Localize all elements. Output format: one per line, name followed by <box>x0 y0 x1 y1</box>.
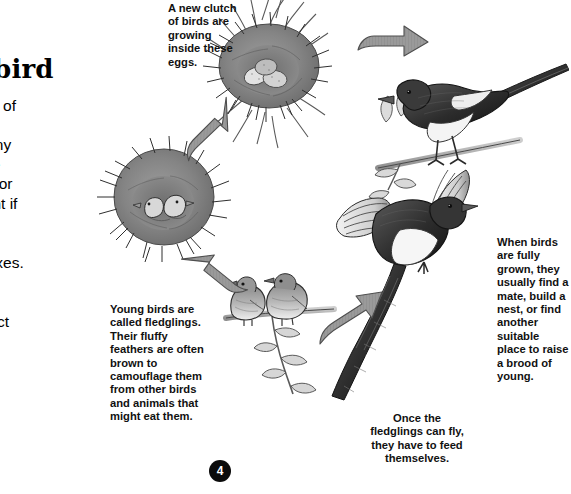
caption-line: grown, they <box>497 263 571 276</box>
intro-line: look just like <box>0 155 116 175</box>
caption-line: themselves. <box>358 452 476 465</box>
arrow-chicks-to-fledgling <box>181 254 247 294</box>
caption-fledglings: Young birds are called fledglings. Their… <box>110 303 222 424</box>
caption-line: might eat them. <box>110 410 222 423</box>
page-number: 4 <box>209 460 231 482</box>
caption-line: growing <box>168 29 264 42</box>
caption-eggs: A new clutch of birds are growing inside… <box>168 2 264 69</box>
caption-feeding: Once the fledglings can fly, they have t… <box>358 412 476 466</box>
caption-line: feathers are often <box>110 343 222 356</box>
page-title: to bird <box>0 54 54 84</box>
intro-line: f the two sexes. <box>0 253 116 273</box>
caption-line: Their fluffy <box>110 330 222 343</box>
intro-line: ng season, <box>0 292 116 312</box>
intro-line: show best <box>0 272 116 292</box>
flying-magpie-illustration <box>332 170 478 400</box>
caption-line: Young birds are <box>110 303 222 316</box>
caption-grown-birds: When birds are fully grown, they usually… <box>497 236 571 383</box>
caption-line: usually find a <box>497 276 571 289</box>
caption-line: brown to <box>110 357 222 370</box>
caption-line: When birds <box>497 236 571 249</box>
perched-magpie-illustration <box>369 64 569 199</box>
intro-line: watch birds <box>0 116 116 136</box>
caption-line: fledglings can fly, <box>358 425 476 438</box>
caption-line: nest, or find <box>497 303 571 316</box>
intro-line: n't expect any <box>0 135 116 155</box>
caption-line: A new clutch <box>168 2 264 15</box>
intro-line: y be different if <box>0 194 116 214</box>
caption-line: inside these <box>168 42 264 55</box>
arrow-adult-to-nest <box>358 26 428 56</box>
arrow-eggs-to-chicks <box>187 95 230 164</box>
caption-line: are fully <box>497 249 571 262</box>
intro-line: ving to attract <box>0 312 116 332</box>
arrow-fledgling-to-adult <box>320 292 382 344</box>
caption-line: mate, build a <box>497 290 571 303</box>
caption-line: place to raise <box>497 343 571 356</box>
caption-line: eggs. <box>168 56 264 69</box>
caption-line: another <box>497 316 571 329</box>
caption-line: from other birds <box>110 383 222 396</box>
caption-line: and animals that <box>110 397 222 410</box>
intro-paragraph: at all stages of watch birds n't expect … <box>0 96 116 331</box>
caption-line: called fledglings. <box>110 316 222 329</box>
intro-line: or a female. <box>0 214 116 234</box>
caption-line: they have to feed <box>358 439 476 452</box>
intro-line: the more <box>0 233 116 253</box>
caption-line: suitable <box>497 330 571 343</box>
caption-line: a brood of <box>497 357 571 370</box>
caption-line: of birds are <box>168 15 264 28</box>
nest-with-chicks-illustration <box>97 136 231 262</box>
two-fledglings-on-branch-illustration <box>226 274 334 394</box>
caption-line: Once the <box>358 412 476 425</box>
caption-line: camouflage them <box>110 370 222 383</box>
caption-line: young. <box>497 370 571 383</box>
intro-line: book. Its color <box>0 174 116 194</box>
intro-line: at all stages of <box>0 96 116 116</box>
